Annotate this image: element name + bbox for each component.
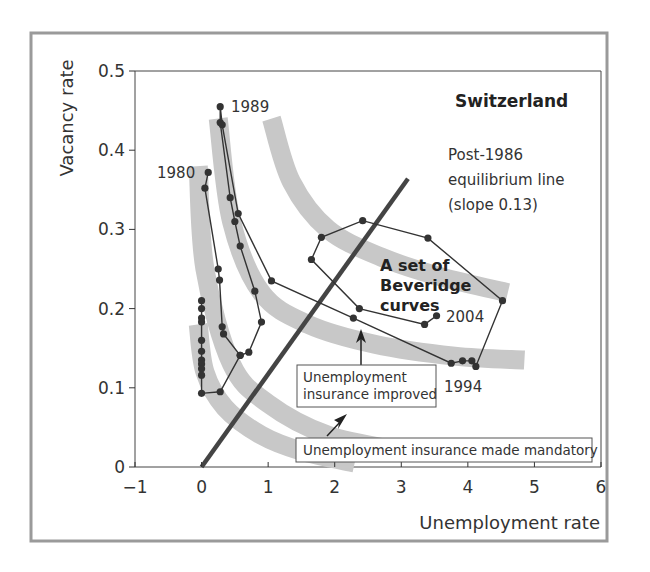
y-axis-title: Vacancy rate: [56, 59, 77, 176]
data-point: [499, 297, 506, 304]
data-point: [258, 318, 265, 325]
y-tick-label: 0.5: [98, 61, 125, 81]
x-tick-label: −1: [122, 477, 147, 497]
ui-improved-label-2: insurance improved: [303, 386, 437, 402]
y-tick-label: 0.3: [98, 219, 125, 239]
data-point: [217, 388, 224, 395]
beveridge-label-2: Beveridge: [380, 276, 472, 295]
year-label-1989: 1989: [231, 98, 269, 116]
data-point: [359, 217, 366, 224]
data-point: [308, 256, 315, 263]
x-tick-label: 5: [529, 477, 540, 497]
data-point: [201, 185, 208, 192]
data-point: [215, 265, 222, 272]
chart-title: Switzerland: [455, 91, 568, 111]
data-point: [448, 360, 455, 367]
data-point: [219, 121, 226, 128]
data-point: [231, 218, 238, 225]
x-tick-label: 4: [462, 477, 473, 497]
x-tick-label: 2: [329, 477, 340, 497]
y-tick-label: 0.4: [98, 140, 125, 160]
data-point: [198, 365, 205, 372]
data-point: [198, 372, 205, 379]
data-point: [205, 169, 212, 176]
year-label-1994: 1994: [444, 378, 482, 396]
x-tick-label: 0: [196, 477, 207, 497]
data-point: [424, 235, 431, 242]
beveridge-label-3: curves: [380, 296, 440, 315]
data-point: [220, 330, 227, 337]
data-point: [198, 348, 205, 355]
y-tick-label: 0: [114, 457, 125, 477]
x-tick-label: 3: [396, 477, 407, 497]
data-point: [198, 318, 205, 325]
data-point: [198, 337, 205, 344]
x-tick-label: 6: [596, 477, 607, 497]
data-point: [237, 352, 244, 359]
data-point: [472, 363, 479, 370]
beveridge-chart: −10123456 00.10.20.30.40.5 Unemployment …: [0, 0, 650, 572]
data-point: [198, 305, 205, 312]
data-point: [219, 323, 226, 330]
x-tick-label: 1: [263, 477, 274, 497]
y-tick-label: 0.1: [98, 378, 125, 398]
year-label-2004: 2004: [446, 308, 484, 326]
data-point: [216, 276, 223, 283]
x-axis-title: Unemployment rate: [419, 512, 600, 533]
eq-line-label-3: (slope 0.13): [448, 196, 538, 214]
data-point: [318, 234, 325, 241]
ui-improved-label-1: Unemployment: [303, 369, 407, 385]
data-point: [217, 103, 224, 110]
data-point: [268, 277, 275, 284]
data-point: [235, 210, 242, 217]
data-point: [245, 349, 252, 356]
eq-line-label-1: Post-1986: [448, 146, 523, 164]
data-point: [251, 288, 258, 295]
data-point: [198, 390, 205, 397]
y-tick-label: 0.2: [98, 299, 125, 319]
eq-line-label-2: equilibrium line: [448, 171, 565, 189]
ui-mandatory-label: Unemployment insurance made mandatory: [303, 442, 598, 458]
data-point: [237, 242, 244, 249]
data-point: [350, 315, 357, 322]
data-point: [227, 194, 234, 201]
data-point: [356, 305, 363, 312]
data-point: [459, 357, 466, 364]
data-point: [198, 297, 205, 304]
data-point: [421, 321, 428, 328]
beveridge-label-1: A set of: [380, 256, 451, 275]
year-label-1980: 1980: [157, 164, 195, 182]
